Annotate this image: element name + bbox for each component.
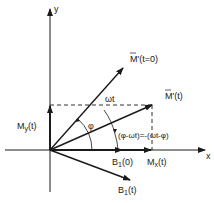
vector-diagram: y x M'(t=0) M'(t) ωt φ (φ-ωt)=-(ωt-φ) My… (0, 0, 214, 203)
phi-label: φ (88, 121, 94, 131)
m-prime-t0-arrow (50, 68, 123, 150)
diagram-canvas: y x M'(t=0) M'(t) ωt φ (φ-ωt)=-(ωt-φ) My… (0, 0, 214, 203)
phase-relation-label: (φ-ωt)=-(ωt-φ) (118, 131, 169, 140)
mx-label: Mx(t) (147, 157, 167, 168)
omega-t-arc-arrowhead (113, 129, 117, 133)
x-axis-label: x (206, 151, 211, 161)
m-prime-t-arrow (50, 105, 152, 150)
my-label: My(t) (17, 121, 37, 133)
b1-t-label: B1(t) (118, 185, 136, 196)
b1-0-label: B1(0) (112, 157, 133, 168)
m-prime-t-label: M'(t) (165, 91, 183, 101)
y-axis-label: y (54, 4, 59, 14)
omega-t-label: ωt (105, 94, 115, 104)
m-prime-t0-label: M'(t=0) (130, 54, 158, 64)
